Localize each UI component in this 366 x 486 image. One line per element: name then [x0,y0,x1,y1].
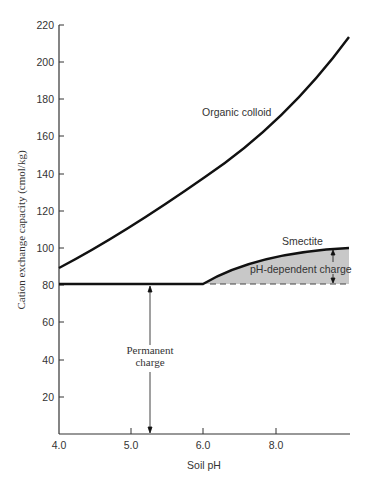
organic-colloid-curve [59,37,349,268]
svg-text:6.0: 6.0 [196,439,211,451]
svg-text:60: 60 [42,316,54,328]
svg-text:100: 100 [36,242,54,254]
svg-text:4.0: 4.0 [52,439,67,451]
smectite-label: Smectite [282,235,323,247]
y-tick-labels: 220 200 180 160 140 120 100 80 60 40 20 [36,19,54,403]
svg-text:140: 140 [36,168,54,180]
svg-text:80: 80 [42,279,54,291]
svg-text:5.0: 5.0 [124,439,139,451]
ph-dependent-label: pH-dependent charge [250,263,352,275]
x-axis-label: Soil pH [187,459,221,471]
svg-text:40: 40 [42,354,54,366]
x-tick-labels: 4.0 5.0 6.0 8.0 [52,439,284,451]
x-ticks [131,428,276,434]
cec-chart: 220 200 180 160 140 120 100 80 60 40 20 … [0,0,366,486]
organic-colloid-label: Organic colloid [202,106,272,118]
svg-text:160: 160 [36,130,54,142]
svg-text:8.0: 8.0 [269,439,284,451]
y-axis-label: Cation exchange capacity (cmol/kg) [15,150,28,309]
permanent-charge-label-1: Permanent [126,344,173,356]
svg-text:200: 200 [36,56,54,68]
y-ticks [59,25,64,397]
svg-text:20: 20 [42,391,54,403]
svg-text:120: 120 [36,205,54,217]
svg-text:180: 180 [36,93,54,105]
svg-text:220: 220 [36,19,54,31]
permanent-charge-label-2: charge [135,356,164,368]
